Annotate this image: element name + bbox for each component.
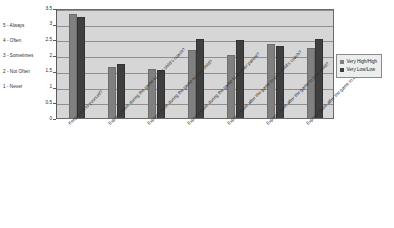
bar [315,39,323,118]
scale-key-item: 1 - Never [3,85,55,100]
y-axis-tick-mark [53,40,56,41]
y-axis-tick-mark [53,9,56,10]
bar-group [136,10,176,118]
bar-group [216,10,256,118]
scale-key: 5 - Always 4 - Often 3 - Sometimes 2 - N… [3,24,55,100]
bar-group [256,10,296,118]
y-axis-tick-mark [53,25,56,26]
legend-item: Very High/High [340,58,377,66]
bar [148,69,156,118]
bar-group [97,10,137,118]
bar-group [295,10,335,118]
legend-label: Very Low/Low [347,68,376,73]
bar [267,44,275,118]
y-axis-tick-mark [53,72,56,73]
bar [236,40,244,118]
legend-label: Very High/High [347,60,378,65]
y-axis-line [56,9,57,119]
y-axis-tick-mark [53,103,56,104]
bar [108,67,116,118]
bar-group [176,10,216,118]
bar [69,14,77,118]
bar [188,50,196,118]
bar [117,64,125,118]
bar [227,55,235,118]
legend-swatch-icon [340,68,344,72]
bar-chart: 5 - Always 4 - Often 3 - Sometimes 2 - N… [0,0,394,228]
bar [157,70,165,118]
scale-key-item: 3 - Sometimes [3,54,55,69]
legend-swatch-icon [340,60,344,64]
bar [276,46,284,118]
bar [307,48,315,118]
y-axis-tick-mark [53,119,56,120]
bar-group [57,10,97,118]
legend-item: Very Low/Low [340,66,377,74]
bar [196,39,204,118]
y-axis-tick-mark [53,88,56,89]
plot-area [56,9,334,119]
plot-inner [57,10,333,118]
bar [77,17,85,118]
y-axis-tick-mark [53,56,56,57]
legend: Very High/High Very Low/Low [336,54,382,78]
